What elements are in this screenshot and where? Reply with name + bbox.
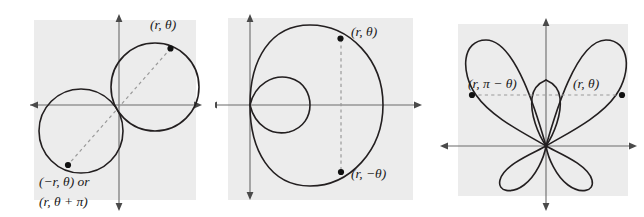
panel-1-point-lower bbox=[65, 162, 71, 168]
panel-1-y-axis-arrow-down bbox=[116, 203, 123, 211]
panel-3-label-left: (r, π − θ) bbox=[468, 76, 517, 91]
panel-3-label-right: (r, θ) bbox=[573, 76, 600, 91]
panel-3-point-left bbox=[469, 92, 475, 98]
polar-symmetry-figure: (r, θ) (−r, θ) or (r, θ + π) bbox=[0, 0, 644, 217]
panel-3-canvas: (r, π − θ) (r, θ) bbox=[430, 0, 644, 217]
panel-1-point-upper bbox=[167, 45, 173, 51]
panel-3-x-axis-arrow-right bbox=[629, 143, 637, 150]
panel-2-point-lower bbox=[338, 169, 344, 175]
panel-y-axis-symmetry: (r, π − θ) (r, θ) bbox=[430, 0, 644, 217]
panel-point-symmetry: (r, θ) (−r, θ) or (r, θ + π) bbox=[0, 0, 215, 217]
panel-3-y-axis-arrow-down bbox=[543, 203, 550, 211]
panel-1-y-axis-arrow-up bbox=[116, 14, 123, 22]
panel-2-x-axis-arrow-left bbox=[215, 102, 217, 109]
panel-1-label-upper: (r, θ) bbox=[150, 17, 177, 32]
panel-2-point-upper bbox=[337, 35, 343, 41]
panel-x-axis-symmetry: (r, θ) (r, −θ) bbox=[215, 0, 430, 217]
panel-2-canvas: (r, θ) (r, −θ) bbox=[215, 0, 430, 217]
panel-3-y-axis-arrow-up bbox=[543, 18, 550, 26]
panel-3-x-axis-arrow-left bbox=[440, 143, 448, 150]
panel-2-label-upper: (r, θ) bbox=[351, 24, 378, 39]
panel-1-label-lower-line2: (r, θ + π) bbox=[39, 194, 88, 209]
panel-2-label-lower: (r, −θ) bbox=[351, 166, 387, 181]
panel-2-x-axis-arrow-right bbox=[414, 102, 422, 109]
panel-3-point-right bbox=[619, 92, 625, 98]
panel-1-canvas: (r, θ) (−r, θ) or (r, θ + π) bbox=[0, 0, 215, 217]
panel-1-label-lower-line1: (−r, θ) or bbox=[39, 174, 90, 189]
